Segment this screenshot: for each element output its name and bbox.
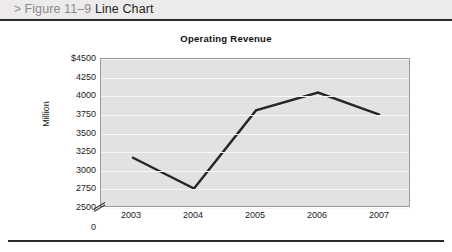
- figure-header-bar: > Figure 11–9 Line Chart: [0, 0, 452, 19]
- chevron-right-icon: >: [14, 2, 21, 16]
- y-axis-tick-labels: $4500425040003750350032503000275025000: [38, 21, 96, 252]
- figure-body: Operating Revenue $450042504000375035003…: [0, 21, 452, 252]
- y-axis-tick-label: 3250: [40, 147, 96, 156]
- gridline: [101, 208, 409, 209]
- y-axis-tick-label: 2500: [40, 203, 96, 212]
- y-axis-tick-label: 2750: [40, 184, 96, 193]
- y-axis-tick-label: $4500: [40, 54, 96, 63]
- gridline: [101, 152, 409, 153]
- x-axis-tick-label: 2004: [170, 210, 216, 220]
- x-axis-tick-label: 2003: [108, 210, 154, 220]
- y-axis-tick-label: 4250: [40, 73, 96, 82]
- gridline: [101, 189, 409, 190]
- gridline: [101, 115, 409, 116]
- data-line-operating-revenue: [132, 93, 380, 189]
- figure-caption: > Figure 11–9 Line Chart: [14, 1, 154, 18]
- figure-bottom-divider: [8, 240, 444, 242]
- y-axis-title: Million: [41, 94, 51, 134]
- figure-title-label: Line Chart: [95, 2, 154, 16]
- x-axis-tick-label: 2007: [356, 210, 402, 220]
- figure-number-label: Figure 11–9: [25, 2, 92, 16]
- gridline: [101, 78, 409, 79]
- x-axis-tick-label: 2005: [232, 210, 278, 220]
- plot-area: [100, 58, 410, 207]
- gridline: [101, 171, 409, 172]
- x-axis-tick-labels: 20032004200520062007: [100, 210, 410, 226]
- gridline: [101, 134, 409, 135]
- y-axis-tick-label: 0: [40, 223, 96, 232]
- y-axis-tick-label: 3000: [40, 166, 96, 175]
- gridline: [101, 59, 409, 60]
- gridline: [101, 96, 409, 97]
- x-axis-tick-label: 2006: [294, 210, 340, 220]
